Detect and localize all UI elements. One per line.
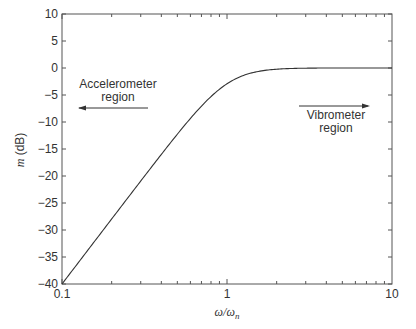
y-tick-label: 0: [51, 61, 58, 75]
y-tick-label: −30: [38, 223, 59, 237]
x-axis-ticks: 0.1110: [54, 14, 399, 301]
y-tick-label: −5: [44, 88, 58, 102]
chart: 1050−5−10−15−20−25−30−35−40 0.1110 Accel…: [0, 0, 416, 329]
y-tick-label: −35: [38, 250, 59, 264]
accelerometer-label-line1: Accelerometer: [79, 77, 156, 91]
y-tick-label: −10: [38, 115, 59, 129]
left-arrow-icon: [78, 106, 148, 111]
vibrometer-label-line2: region: [319, 121, 352, 135]
accelerometer-label-line2: region: [101, 90, 134, 104]
y-tick-label: −20: [38, 169, 59, 183]
x-tick-label: 1: [224, 287, 231, 301]
x-tick-label: 0.1: [54, 287, 71, 301]
plot-frame: [62, 14, 392, 284]
x-axis-label: ω/ωn: [215, 305, 240, 321]
y-tick-label: 10: [45, 7, 59, 21]
y-axis-ticks: 1050−5−10−15−20−25−30−35−40: [38, 7, 392, 291]
y-tick-label: −25: [38, 196, 59, 210]
y-axis-label: m (dB): [13, 133, 27, 168]
y-tick-label: −15: [38, 142, 59, 156]
vibrometer-label-line1: Vibrometer: [307, 108, 365, 122]
x-tick-label: 10: [385, 287, 399, 301]
y-tick-label: 5: [51, 34, 58, 48]
